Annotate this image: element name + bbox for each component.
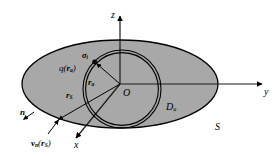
axis-label-y: y (264, 87, 268, 97)
label-sigma-i: σi (82, 51, 88, 60)
aperture-point-marker (92, 59, 97, 64)
axis-label-x: x (74, 140, 78, 150)
label-surface-S: S (215, 122, 220, 132)
normal-vector-n (24, 112, 35, 120)
normal-velocity-arrow (48, 120, 59, 134)
sigma-subscript: i (87, 54, 88, 60)
origin-label: O (123, 88, 130, 98)
label-normal-n: n (20, 108, 25, 117)
label-region-D-a: Da (166, 102, 176, 113)
figure-canvas (0, 0, 279, 156)
label-vector-r-S: rS (66, 91, 73, 101)
r-a-subscript: a (92, 81, 95, 87)
label-vector-r-a: ra (88, 78, 94, 88)
q-close-paren: ) (73, 63, 76, 73)
axis-label-z: z (111, 10, 115, 20)
D-a-subscript: a (173, 105, 176, 112)
r-S-subscript: S (70, 94, 73, 100)
q-function-name: q( (59, 63, 67, 73)
label-source-strength: q(ra) (59, 64, 76, 74)
geometry-figure: z y x O σi q(ra) ra rS n vn(rS) Da S (0, 0, 279, 156)
v-close-paren: ) (48, 138, 51, 148)
label-normal-velocity: vn(rS) (31, 139, 51, 149)
